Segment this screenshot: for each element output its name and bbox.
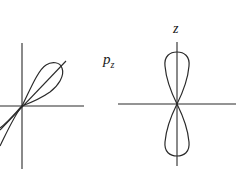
pz-orbital-panel: pz z (102, 21, 236, 166)
orbital-label: pz (102, 51, 115, 70)
upper-lobe (22, 63, 63, 106)
tilted-orbital-panel (0, 43, 84, 169)
orbital-diagram: pz z (0, 0, 236, 169)
z-axis-label: z (172, 21, 179, 36)
